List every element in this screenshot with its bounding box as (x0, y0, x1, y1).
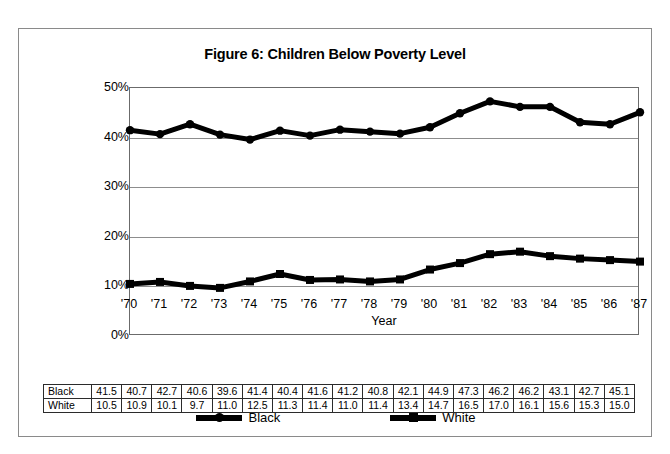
x-axis-tick-label: '79 (391, 297, 407, 311)
y-axis-tick-label: 40% (69, 130, 129, 144)
x-axis-tick-label: '77 (331, 297, 347, 311)
x-axis-tick-label: '80 (421, 297, 437, 311)
legend-item-white: White (390, 410, 475, 425)
data-point-marker (426, 266, 434, 274)
x-axis-tick-label: '82 (481, 297, 497, 311)
chart-legend: BlackWhite (19, 410, 653, 425)
x-axis-tick-label: '71 (151, 297, 167, 311)
data-point-marker (216, 130, 224, 138)
x-axis-tick-label: '81 (451, 297, 467, 311)
data-point-marker (156, 278, 164, 286)
series-line-black (130, 101, 640, 139)
table-cell: 40.8 (363, 385, 393, 399)
data-point-marker (486, 250, 494, 258)
table-cell: 41.2 (333, 385, 363, 399)
data-point-marker (156, 130, 164, 138)
data-point-marker (576, 118, 584, 126)
data-point-marker (126, 280, 134, 288)
data-point-marker (126, 126, 134, 134)
data-point-marker (276, 270, 284, 278)
table-cell: 43.1 (544, 385, 574, 399)
table-cell: 46.2 (514, 385, 544, 399)
table-cell: 44.9 (423, 385, 453, 399)
data-table: Black41.540.742.740.639.641.440.441.641.… (43, 384, 635, 413)
table-row-label: Black (44, 385, 92, 399)
table-cell: 41.5 (92, 385, 122, 399)
data-point-marker (246, 277, 254, 285)
data-point-marker (456, 259, 464, 267)
data-point-marker (486, 97, 494, 105)
table-cell: 42.7 (574, 385, 604, 399)
table-cell: 47.3 (453, 385, 483, 399)
data-point-marker (366, 127, 374, 135)
x-axis-tick-label: '85 (571, 297, 587, 311)
x-axis-tick-label: '72 (181, 297, 197, 311)
x-axis-tick-label: '86 (601, 297, 617, 311)
data-point-marker (336, 275, 344, 283)
data-point-marker (186, 120, 194, 128)
legend-swatch-square-icon (390, 415, 436, 421)
x-axis-tick-labels: '70'71'72'73'74'75'76'77'78'79'80'81'82'… (129, 297, 639, 315)
data-point-marker (216, 284, 224, 292)
x-axis-tick-label: '83 (511, 297, 527, 311)
legend-marker-circle-icon (215, 413, 224, 422)
table-cell: 42.1 (393, 385, 423, 399)
table-cell: 40.4 (272, 385, 302, 399)
data-point-marker (546, 103, 554, 111)
x-axis-tick-label: '84 (541, 297, 557, 311)
data-point-marker (516, 103, 524, 111)
data-point-marker (636, 258, 644, 266)
figure-container: Figure 6: Children Below Poverty Level 0… (18, 28, 652, 437)
x-axis-tick-label: '87 (631, 297, 647, 311)
y-axis-tick-label: 50% (69, 80, 129, 94)
y-axis-tick-label: 10% (69, 278, 129, 292)
data-point-marker (606, 120, 614, 128)
data-point-marker (336, 125, 344, 133)
legend-label: White (442, 410, 475, 425)
table-cell: 42.7 (152, 385, 182, 399)
legend-label: Black (248, 410, 280, 425)
table-row: Black41.540.742.740.639.641.440.441.641.… (44, 385, 635, 399)
table-cell: 41.6 (303, 385, 333, 399)
data-point-marker (396, 129, 404, 137)
table-cell: 41.4 (242, 385, 272, 399)
data-point-marker (456, 109, 464, 117)
table-cell: 39.6 (212, 385, 242, 399)
x-axis-tick-label: '78 (361, 297, 377, 311)
data-point-marker (246, 135, 254, 143)
data-point-marker (576, 255, 584, 263)
x-axis-tick-label: '73 (211, 297, 227, 311)
series-line-white (130, 252, 640, 288)
data-table-body: Black41.540.742.740.639.641.440.441.641.… (44, 385, 635, 413)
table-cell: 46.2 (484, 385, 514, 399)
y-axis-tick-label: 30% (69, 179, 129, 193)
data-point-marker (366, 277, 374, 285)
data-point-marker (606, 256, 614, 264)
data-point-marker (426, 123, 434, 131)
table-cell: 45.1 (604, 385, 634, 399)
legend-swatch-circle-icon (196, 415, 242, 421)
x-axis-tick-label: '76 (301, 297, 317, 311)
data-point-marker (306, 131, 314, 139)
data-point-marker (516, 248, 524, 256)
legend-item-black: Black (196, 410, 280, 425)
table-cell: 40.7 (122, 385, 152, 399)
data-point-marker (636, 108, 644, 116)
x-axis-title: Year (129, 314, 639, 328)
data-point-marker (276, 126, 284, 134)
x-axis-tick-label: '74 (241, 297, 257, 311)
data-point-marker (306, 276, 314, 284)
data-point-marker (186, 282, 194, 290)
x-axis-tick-label: '75 (271, 297, 287, 311)
y-axis-tick-label: 0% (69, 328, 129, 342)
data-point-marker (396, 275, 404, 283)
chart-title: Figure 6: Children Below Poverty Level (19, 46, 651, 62)
legend-marker-square-icon (409, 413, 418, 422)
x-axis-tick-label: '70 (121, 297, 137, 311)
table-cell: 40.6 (182, 385, 212, 399)
y-axis-tick-label: 20% (69, 229, 129, 243)
data-point-marker (546, 252, 554, 260)
